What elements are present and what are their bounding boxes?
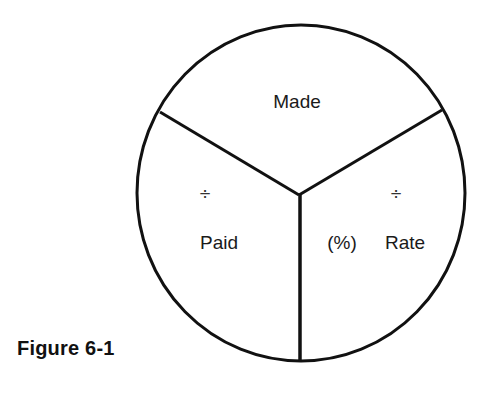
label-paid: Paid xyxy=(200,232,238,253)
divide-operator-left: ÷ xyxy=(199,185,212,203)
divide-operator-right: ÷ xyxy=(390,185,403,203)
divider-left xyxy=(160,112,299,195)
divider-right xyxy=(299,110,442,195)
label-rate: Rate xyxy=(385,232,425,253)
label-made: Made xyxy=(273,91,321,112)
label-percent-symbol: (%) xyxy=(327,232,357,253)
percentage-circle-diagram: Made ÷ ÷ Paid (%) Rate xyxy=(0,0,490,393)
figure-caption: Figure 6-1 xyxy=(17,337,115,360)
